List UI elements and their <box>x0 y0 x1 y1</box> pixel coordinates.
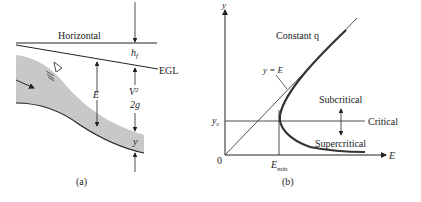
velocity-head-denominator: 2g <box>130 99 140 110</box>
free-surface-triangle-icon <box>54 62 62 72</box>
y-equals-e-label: y = E <box>262 65 284 75</box>
critical-label: Critical <box>368 116 398 127</box>
panel-b-caption: (b) <box>282 176 294 188</box>
velocity-head-numerator: V² <box>129 86 139 97</box>
e-axis-label: E <box>388 150 395 161</box>
water-body <box>16 55 144 153</box>
emin-label: Emin <box>270 159 288 173</box>
supercritical-label: Supercritical <box>315 138 366 149</box>
depth-y-label: y <box>132 136 138 147</box>
subcritical-label: Subcritical <box>319 94 363 105</box>
panel-b-specific-energy-chart: y E 0 yc Emin Constant q y = E Subcritic… <box>211 0 398 188</box>
panel-a-channel-diagram: Horizontal EGL E hf V² 2g y (a) <box>16 2 178 188</box>
e-label: E <box>92 89 99 100</box>
specific-energy-figure: Horizontal EGL E hf V² 2g y (a) y E 0 <box>0 0 421 202</box>
origin-label: 0 <box>217 155 222 166</box>
horizontal-label: Horizontal <box>58 30 101 41</box>
specific-energy-curve <box>280 30 365 152</box>
constant-q-label: Constant q <box>276 30 319 41</box>
hf-label: hf <box>131 47 139 60</box>
egl-label: EGL <box>159 65 178 76</box>
panel-a-caption: (a) <box>76 176 87 188</box>
y-axis-label: y <box>221 0 226 10</box>
yc-label: yc <box>211 115 220 128</box>
